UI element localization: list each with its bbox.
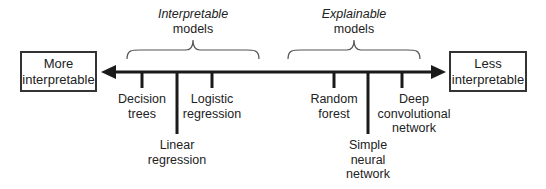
less-interpretable-box: Less interpretable (449, 51, 527, 92)
brace-interpretable-icon (127, 40, 259, 59)
group-label-interpretable-plain: models (158, 22, 228, 37)
model-label-line: network (378, 121, 451, 136)
model-label-line: trees (118, 107, 166, 122)
brace-explainable-icon (288, 40, 420, 59)
more-interpretable-line2: interpretable (22, 72, 94, 88)
model-label-logistic-regression: Logistic regression (183, 92, 241, 121)
model-label-random-forest: Random forest (310, 92, 357, 121)
model-label-deep-convolutional-network: Deep convolutional network (378, 92, 451, 136)
less-interpretable-line2: interpretable (452, 72, 524, 88)
model-label-line: network (346, 167, 390, 182)
model-label-line: regression (183, 107, 241, 122)
more-interpretable-box: More interpretable (20, 51, 97, 92)
model-label-line: Simple (346, 138, 390, 153)
model-label-line: Decision (118, 92, 166, 107)
model-label-line: Random (310, 92, 357, 107)
model-label-line: forest (310, 107, 357, 122)
more-interpretable-line1: More (22, 56, 94, 72)
group-label-explainable: Explainable models (322, 7, 387, 37)
model-label-line: Logistic (183, 92, 241, 107)
group-label-explainable-italic: Explainable (322, 7, 387, 22)
diagram-graphics (0, 0, 546, 189)
model-label-line: neural (346, 153, 390, 168)
model-label-line: Linear (148, 138, 206, 153)
group-label-interpretable: Interpretable models (158, 7, 228, 37)
model-label-decision-trees: Decision trees (118, 92, 166, 121)
model-label-line: Deep (378, 92, 451, 107)
group-label-explainable-plain: models (322, 22, 387, 37)
group-label-interpretable-italic: Interpretable (158, 7, 228, 22)
model-label-simple-neural-network: Simple neural network (346, 138, 390, 182)
model-label-line: convolutional (378, 107, 451, 122)
model-label-line: regression (148, 153, 206, 168)
arrowhead-right-icon (431, 65, 446, 79)
arrowhead-left-icon (101, 65, 116, 79)
model-label-linear-regression: Linear regression (148, 138, 206, 167)
less-interpretable-line1: Less (452, 56, 524, 72)
